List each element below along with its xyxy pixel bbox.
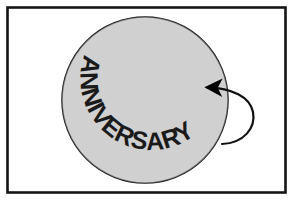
illustration-canvas: ANNIVERSARY bbox=[0, 0, 293, 203]
figure-root: ANNIVERSARY bbox=[0, 0, 293, 203]
